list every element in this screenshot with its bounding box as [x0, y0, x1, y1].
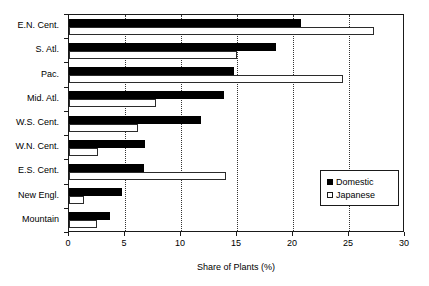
x-axis-tick-label: 0: [65, 238, 70, 248]
y-axis-tick: [64, 14, 68, 15]
legend-entry-japanese: Japanese: [327, 188, 392, 201]
x-axis-tick-label: 5: [121, 238, 126, 248]
y-axis-category-label: S. Atl.: [0, 44, 64, 54]
bar-japanese: [69, 148, 98, 156]
y-axis-category-label: E.N. Cent.: [0, 20, 64, 30]
bar-domestic: [69, 188, 122, 196]
legend-label-domestic: Domestic: [336, 177, 374, 187]
x-axis-tick: [404, 232, 405, 236]
legend-swatch-domestic-icon: [327, 179, 333, 185]
x-axis-title: Share of Plants (%): [68, 262, 404, 272]
y-axis-tick: [64, 232, 68, 233]
bar-chart: E.N. Cent.S. Atl.Pac.Mid. Atl.W.S. Cent.…: [0, 0, 429, 286]
y-axis-category-label: Mountain: [0, 214, 64, 224]
bar-domestic: [69, 43, 276, 51]
bar-domestic: [69, 212, 110, 220]
x-axis: 051015202530: [68, 232, 404, 262]
legend-swatch-japanese-icon: [327, 192, 333, 198]
chart-legend: Domestic Japanese: [320, 170, 399, 206]
x-axis-tick-label: 20: [287, 238, 297, 248]
y-axis-tick: [64, 208, 68, 209]
bar-domestic: [69, 19, 301, 27]
y-axis-tick: [64, 111, 68, 112]
y-axis-category-label: W.S. Cent.: [0, 117, 64, 127]
bar-japanese: [69, 172, 226, 180]
bar-japanese: [69, 196, 84, 204]
y-axis-category-labels: E.N. Cent.S. Atl.Pac.Mid. Atl.W.S. Cent.…: [0, 14, 64, 232]
y-axis-tick: [64, 87, 68, 88]
y-axis-category-label: New Engl.: [0, 190, 64, 200]
x-axis-tick-label: 30: [399, 238, 409, 248]
legend-label-japanese: Japanese: [336, 190, 375, 200]
x-axis-tick: [180, 232, 181, 236]
bar-domestic: [69, 164, 144, 172]
bar-domestic: [69, 91, 224, 99]
bar-japanese: [69, 99, 156, 107]
legend-entry-domestic: Domestic: [327, 175, 392, 188]
y-axis-tick: [64, 184, 68, 185]
bar-japanese: [69, 51, 237, 59]
x-axis-tick: [292, 232, 293, 236]
x-axis-tick-label: 10: [175, 238, 185, 248]
y-axis-tick: [64, 135, 68, 136]
bar-japanese: [69, 27, 374, 35]
x-axis-tick: [236, 232, 237, 236]
y-axis-category-label: E.S. Cent.: [0, 165, 64, 175]
x-axis-tick: [68, 232, 69, 236]
bar-domestic: [69, 67, 234, 75]
x-axis-tick: [348, 232, 349, 236]
y-axis-category-label: Pac.: [0, 69, 64, 79]
bar-domestic: [69, 140, 145, 148]
bar-japanese: [69, 75, 343, 83]
x-axis-tick-label: 15: [231, 238, 241, 248]
x-axis-tick: [124, 232, 125, 236]
y-axis-category-label: W.N. Cent.: [0, 141, 64, 151]
gridline: [293, 15, 294, 231]
y-axis-tick: [64, 38, 68, 39]
y-axis-tick: [64, 62, 68, 63]
bar-japanese: [69, 124, 138, 132]
bar-domestic: [69, 116, 201, 124]
y-axis-category-label: Mid. Atl.: [0, 93, 64, 103]
x-axis-tick-label: 25: [343, 238, 353, 248]
bar-japanese: [69, 220, 97, 228]
y-axis-tick: [64, 159, 68, 160]
